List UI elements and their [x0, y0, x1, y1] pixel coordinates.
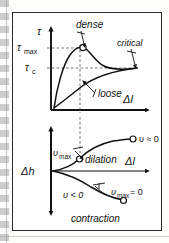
critical-leader-arrow — [131, 49, 135, 65]
upsilon-max-marker — [77, 156, 83, 162]
svg-text:= 0: = 0 — [130, 187, 143, 197]
svg-text:max: max — [117, 192, 130, 199]
shear-stress-chart: τ τ max τ c dense critical — [17, 19, 145, 113]
loose-leader-arrow — [85, 83, 95, 93]
dense-label: dense — [76, 19, 104, 30]
svg-text:max: max — [24, 48, 38, 55]
shear-behaviour-figure: τ τ max τ c dense critical — [13, 13, 161, 230]
svg-text:τ: τ — [17, 42, 22, 53]
scan-edge-line — [6, 0, 7, 243]
svg-text:υ: υ — [111, 187, 116, 197]
delta-l-label-upper: Δl — [122, 93, 133, 105]
svg-text:υ: υ — [53, 148, 58, 158]
tau-axis-label: τ — [37, 25, 42, 37]
scan-edge-artifact — [0, 0, 9, 243]
loose-leader-tick — [93, 89, 96, 97]
scanned-page: τ τ max τ c dense critical — [0, 0, 169, 243]
delta-l-label-lower: Δl — [124, 155, 135, 167]
svg-text:max: max — [59, 153, 72, 160]
upsilon-approx-zero-label: υ ≈ 0 — [139, 134, 159, 144]
tau-max-tick-label: τ max — [17, 42, 38, 55]
upsilon-max-label: υ max — [53, 148, 72, 160]
contraction-label: contraction — [71, 213, 120, 224]
volume-change-chart: Δh υ max dilation υ ≈ 0 Δl υ < 0 — [20, 117, 159, 224]
tau-max-peak-marker — [80, 44, 86, 50]
dilation-label: dilation — [85, 154, 117, 165]
tau-c-tick-label: τ c — [25, 62, 36, 75]
upsilon-max-eq-zero-label: υ max = 0 — [111, 187, 143, 199]
dilation-end-marker — [130, 136, 136, 142]
upsilon-max-leader-tick — [73, 147, 83, 149]
delta-h-axis-label: Δh — [20, 165, 35, 177]
svg-text:c: c — [32, 68, 36, 75]
upsilon-less-than-zero-label: υ < 0 — [63, 190, 83, 200]
scan-bottom-artifact — [0, 236, 169, 237]
svg-text:τ: τ — [25, 62, 30, 73]
figure-frame: τ τ max τ c dense critical — [12, 12, 162, 231]
loose-label: loose — [98, 88, 122, 99]
svg-text:Δh: Δh — [20, 165, 35, 177]
critical-label: critical — [117, 38, 144, 48]
